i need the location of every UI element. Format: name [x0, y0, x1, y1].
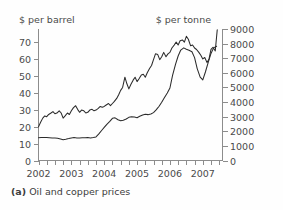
right-axis-tick-label: 6000	[230, 68, 254, 79]
right-axis-tick-label: 1000	[230, 141, 254, 152]
oil-and-copper-prices-chart: $ per barrel $ per tonne 010203040506070…	[0, 0, 283, 210]
right-axis-title: $ per tonne	[156, 14, 211, 25]
x-axis-tick-label: 2004	[92, 168, 116, 179]
right-axis-tick-label: 2000	[230, 126, 254, 137]
right-axis-tick-label: 9000	[230, 24, 254, 35]
series-line-copper-price	[39, 30, 218, 127]
figure-caption: (a) Oil and copper prices	[11, 186, 130, 197]
caption-text: Oil and copper prices	[29, 186, 130, 197]
x-axis-tick-label: 2002	[26, 168, 50, 179]
right-axis-tick-label: 4000	[230, 97, 254, 108]
right-axis-ticks: 0100020003000400050006000700080009000	[223, 24, 255, 167]
left-axis-tick-label: 30	[19, 105, 31, 116]
left-axis-tick-label: 60	[19, 54, 31, 65]
left-axis-tick-label: 20	[19, 122, 31, 133]
right-axis-tick-label: 7000	[230, 53, 254, 64]
x-axis-tick-label: 2005	[125, 168, 149, 179]
series-line-oil-price	[39, 46, 217, 140]
x-axis-ticks: 200220032004200520062007	[26, 161, 219, 180]
x-axis-tick-label: 2007	[191, 168, 215, 179]
x-axis-tick-label: 2003	[59, 168, 83, 179]
right-axis-tick-label: 0	[230, 156, 236, 167]
figure-oil-and-copper-prices: $ per barrel $ per tonne 010203040506070…	[0, 0, 283, 210]
right-axis-tick-label: 3000	[230, 112, 254, 123]
left-axis-tick-label: 0	[25, 156, 31, 167]
left-axis-title: $ per barrel	[19, 14, 75, 25]
left-axis-ticks: 010203040506070	[19, 37, 39, 167]
left-axis-tick-label: 50	[19, 71, 31, 82]
x-axis-tick-label: 2006	[158, 168, 182, 179]
left-axis-tick-label: 40	[19, 88, 31, 99]
caption-label: (a)	[11, 186, 26, 197]
left-axis-tick-label: 10	[19, 139, 31, 150]
right-axis-tick-label: 8000	[230, 39, 254, 50]
right-axis-tick-label: 5000	[230, 82, 254, 93]
left-axis-tick-label: 70	[19, 37, 31, 48]
